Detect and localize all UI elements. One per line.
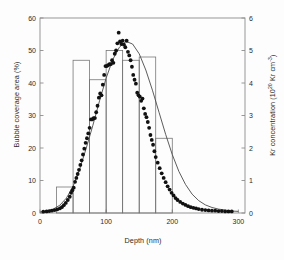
data-point xyxy=(220,209,224,213)
data-point xyxy=(112,61,116,65)
data-point xyxy=(147,126,151,130)
data-point xyxy=(86,131,90,135)
svg-text:0: 0 xyxy=(249,210,253,217)
data-point xyxy=(88,126,92,130)
data-point xyxy=(66,198,70,202)
data-point xyxy=(96,104,100,108)
svg-text:50: 50 xyxy=(28,47,36,54)
data-point xyxy=(129,58,133,62)
data-point xyxy=(149,133,153,137)
data-point xyxy=(141,97,145,101)
svg-text:30: 30 xyxy=(28,112,36,119)
y2-title-exponent-2: -3 xyxy=(267,57,273,62)
svg-text:6: 6 xyxy=(249,15,253,22)
svg-text:200: 200 xyxy=(166,218,178,225)
data-point xyxy=(164,180,168,184)
data-point xyxy=(153,149,157,153)
y2-title-exponent-1: 20 xyxy=(267,83,273,89)
data-point xyxy=(133,78,137,82)
data-point xyxy=(158,166,162,170)
chart-canvas: 010020030001020304050600123456 xyxy=(0,0,284,260)
data-point xyxy=(156,161,160,165)
data-point xyxy=(203,208,207,212)
svg-text:2: 2 xyxy=(249,145,253,152)
y2-title-suffix: ) xyxy=(268,55,277,58)
data-point xyxy=(72,186,76,190)
data-point xyxy=(142,106,146,110)
data-point xyxy=(77,168,81,172)
data-point xyxy=(73,180,77,184)
data-point xyxy=(93,116,97,120)
data-point xyxy=(76,172,80,176)
svg-text:100: 100 xyxy=(100,218,112,225)
data-point xyxy=(80,158,84,162)
data-point xyxy=(82,147,86,151)
data-point xyxy=(207,209,211,213)
data-point xyxy=(210,209,214,213)
data-point xyxy=(41,210,45,214)
data-point xyxy=(230,209,234,213)
data-point xyxy=(150,138,154,142)
data-point xyxy=(81,153,85,157)
data-point xyxy=(146,120,150,124)
data-point xyxy=(117,31,121,35)
data-point xyxy=(113,52,117,56)
data-point xyxy=(227,209,231,213)
data-point xyxy=(84,141,88,145)
data-point xyxy=(74,176,78,180)
data-point xyxy=(162,176,166,180)
svg-text:60: 60 xyxy=(28,15,36,22)
svg-text:5: 5 xyxy=(249,47,253,54)
histogram-bar xyxy=(106,51,123,214)
data-point xyxy=(145,115,149,119)
data-point xyxy=(102,73,106,77)
data-point xyxy=(94,110,98,114)
data-point xyxy=(126,50,130,54)
figure: 010020030001020304050600123456 Bubble co… xyxy=(0,0,284,260)
data-point xyxy=(223,209,227,213)
data-point xyxy=(123,45,127,49)
y2-title-prefix: Kr concentration (10 xyxy=(268,89,277,156)
x-axis-title: Depth (nm) xyxy=(40,236,246,245)
data-point xyxy=(130,65,134,69)
svg-text:1: 1 xyxy=(249,177,253,184)
y2-title-mid: Kr cm xyxy=(268,62,277,83)
data-point xyxy=(168,188,172,192)
data-point xyxy=(151,143,155,147)
data-point xyxy=(100,93,104,97)
data-point xyxy=(197,207,201,211)
data-point xyxy=(217,209,221,213)
data-point xyxy=(154,155,158,159)
data-point xyxy=(121,39,125,43)
data-point xyxy=(131,73,135,77)
data-point xyxy=(134,82,138,86)
data-point xyxy=(125,39,129,43)
data-point xyxy=(143,112,147,116)
histogram-bar xyxy=(139,57,156,213)
svg-text:10: 10 xyxy=(28,177,36,184)
svg-text:4: 4 xyxy=(249,80,253,87)
data-point xyxy=(127,53,131,57)
svg-text:0: 0 xyxy=(32,210,36,217)
data-point xyxy=(78,163,82,167)
y-axis-right-title: Kr concentration (1020 Kr cm-3) xyxy=(267,45,277,165)
svg-text:3: 3 xyxy=(249,112,253,119)
y-axis-left-title: Bubble coverage area (%) xyxy=(12,45,21,165)
data-point xyxy=(114,49,118,53)
data-point xyxy=(200,208,204,212)
svg-text:300: 300 xyxy=(233,218,245,225)
svg-text:0: 0 xyxy=(38,218,42,225)
data-point xyxy=(101,83,105,87)
histogram-bar xyxy=(90,80,107,213)
data-point xyxy=(68,195,72,199)
scatter-points xyxy=(41,31,233,214)
data-point xyxy=(85,136,89,140)
data-point xyxy=(160,171,164,175)
data-point xyxy=(213,209,217,213)
svg-text:20: 20 xyxy=(28,145,36,152)
svg-text:40: 40 xyxy=(28,80,36,87)
histogram-bar xyxy=(156,138,173,213)
data-point xyxy=(166,184,170,188)
